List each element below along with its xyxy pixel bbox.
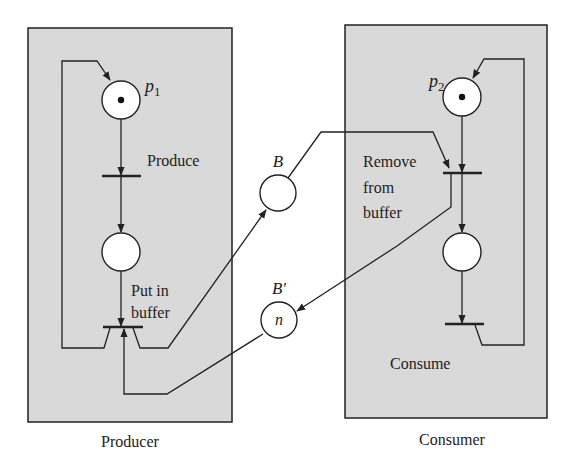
- label-produce: Produce: [147, 152, 199, 169]
- caption-consumer: Consumer: [419, 431, 485, 448]
- label-Bprime: B′: [272, 279, 286, 298]
- token-p2: [459, 94, 465, 100]
- caption-producer: Producer: [101, 433, 159, 450]
- label-consume: Consume: [390, 355, 450, 372]
- place-consumer-middle: [443, 233, 481, 271]
- place-B: [260, 175, 296, 211]
- label-buffer-put: buffer: [131, 304, 170, 321]
- label-buffer-remove: buffer: [363, 204, 402, 221]
- label-B: B: [273, 152, 284, 171]
- label-put-in: Put in: [131, 282, 169, 299]
- token-p1: [118, 97, 124, 103]
- label-from: from: [363, 179, 395, 196]
- label-n: n: [275, 311, 283, 328]
- label-remove: Remove: [363, 153, 416, 170]
- place-producer-middle: [102, 233, 140, 271]
- petri-net-diagram: p1 Produce Put in buffer p2 Remove from …: [0, 0, 576, 475]
